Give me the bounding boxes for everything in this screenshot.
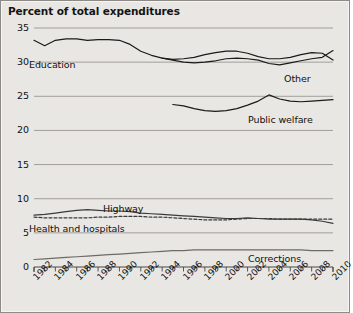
y-axis-tick-label: 30 (7, 56, 29, 67)
y-axis-tick-label: 35 (7, 22, 29, 33)
series-label-corrections: Corrections (248, 253, 301, 264)
y-axis-tick-label: 5 (7, 227, 29, 238)
series-line-education (34, 39, 333, 60)
y-axis-tick-label: 10 (7, 193, 29, 204)
y-axis-tick-label: 20 (7, 124, 29, 135)
series-label-health-and-hospitals: Health and hospitals (29, 223, 125, 234)
y-axis-tick-label: 25 (7, 90, 29, 101)
y-axis-tick-label: 0 (7, 261, 29, 272)
series-line-public-welfare (173, 95, 333, 111)
series-label-other: Other (284, 73, 310, 84)
series-line-highway (34, 210, 333, 224)
series-label-education: Education (29, 59, 75, 70)
series-label-public-welfare: Public welfare (248, 114, 313, 125)
series-label-highway: Highway (103, 203, 143, 214)
y-axis-tick-label: 15 (7, 159, 29, 170)
